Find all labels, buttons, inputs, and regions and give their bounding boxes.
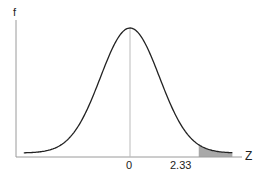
x-axis-label: Z xyxy=(245,150,252,162)
normal-curve-figure xyxy=(0,0,262,177)
tick-label-zero: 0 xyxy=(126,160,132,171)
tick-label-critical: 2.33 xyxy=(170,160,191,171)
density-curve xyxy=(24,28,233,153)
y-axis-label: f xyxy=(13,7,16,18)
